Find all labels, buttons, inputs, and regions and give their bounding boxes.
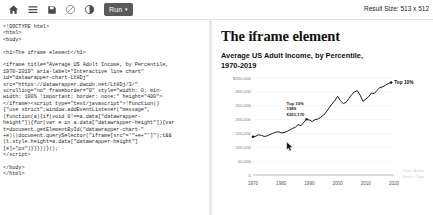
- chart-credit: Chart: Author: [403, 169, 425, 173]
- x-axis-tick-label: 1980: [276, 181, 287, 186]
- x-axis-tick-label: 2010: [361, 181, 372, 186]
- x-axis-tick-label: 2000: [332, 181, 343, 186]
- chart-plot-area: $350,000300,000250,000200,000150,000100,…: [221, 74, 426, 189]
- contrast-icon[interactable]: [80, 1, 99, 19]
- page-title: The iframe element: [221, 28, 433, 45]
- chart-title: Average US Adult Income, by Percentile, …: [221, 51, 381, 70]
- result-preview-pane: The iframe element Average US Adult Inco…: [212, 20, 433, 215]
- x-axis-tick-label: 1990: [304, 181, 315, 186]
- y-axis-tick-label: 300,000: [235, 89, 251, 94]
- result-size-label: Result Size: 513 x 512: [364, 5, 429, 12]
- run-button[interactable]: Run ▾: [104, 3, 133, 16]
- chart-annotation-line: $201,170: [287, 112, 306, 117]
- run-button-label: Run: [109, 6, 122, 13]
- series-end-label: Top 10%: [394, 80, 414, 85]
- chart-annotation-point: [305, 118, 307, 120]
- series-start-point: [252, 135, 255, 138]
- chart-credit: Source: Data: [403, 175, 424, 179]
- chart-line-series: [253, 82, 391, 136]
- code-editor-pane[interactable]: <!DOCTYPE html> <html> <body> <h1>The if…: [0, 20, 209, 215]
- tryit-editor-window: Run ▾ Result Size: 513 x 512 <!DOCTYPE h…: [0, 0, 433, 215]
- x-axis-tick-label: 2020: [389, 181, 400, 186]
- y-axis-tick-label: 200,000: [235, 117, 251, 122]
- x-axis-tick-label: 1970: [248, 181, 259, 186]
- y-axis-tick-label: $350,000: [233, 76, 252, 81]
- no-entry-icon[interactable]: [61, 1, 80, 19]
- editor-toolbar: Run ▾ Result Size: 513 x 512: [0, 0, 433, 20]
- datawrapper-chart-embed: Average US Adult Income, by Percentile, …: [221, 51, 426, 189]
- line-chart-svg: $350,000300,000250,000200,000150,000100,…: [221, 74, 426, 189]
- y-axis-tick-label: 0: [249, 173, 252, 178]
- series-end-point: [390, 81, 393, 84]
- y-axis-tick-label: 150,000: [235, 131, 251, 136]
- chevron-down-icon: ▾: [125, 7, 128, 12]
- home-icon[interactable]: [4, 1, 23, 19]
- code-editor-text[interactable]: <!DOCTYPE html> <html> <body> <h1>The if…: [0, 20, 209, 178]
- y-axis-tick-label: 100,000: [235, 145, 251, 150]
- menu-icon[interactable]: [23, 1, 42, 19]
- mouse-cursor-icon: [286, 142, 293, 152]
- y-axis-tick-label: 250,000: [235, 103, 251, 108]
- save-icon[interactable]: [42, 1, 61, 19]
- y-axis-tick-label: 50,000: [238, 159, 252, 164]
